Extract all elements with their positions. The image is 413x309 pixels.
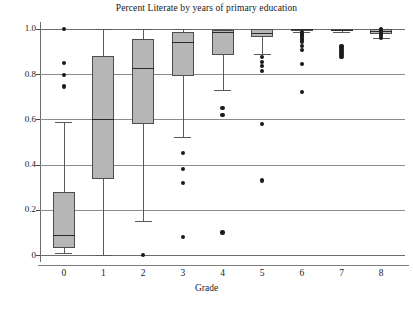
x-axis-tick-label: 1: [91, 268, 115, 278]
y-axis-tick-mark: [36, 74, 40, 75]
y-axis-tick-label: 0.8: [25, 70, 36, 79]
x-axis-tick-label: 4: [211, 268, 235, 278]
y-axis-tick-label: 0.6: [25, 115, 36, 124]
x-axis-tick-label: 3: [171, 268, 195, 278]
x-axis-tick-label: 6: [290, 268, 314, 278]
x-axis-tick-label: 7: [330, 268, 354, 278]
y-axis-tick-mark: [36, 165, 40, 166]
plot-area: [40, 22, 405, 262]
y-axis-tick-label: 0.4: [25, 160, 36, 169]
y-axis-tick-mark: [36, 119, 40, 120]
y-axis-tick-mark: [36, 210, 40, 211]
x-axis-tick-label: 0: [52, 268, 76, 278]
chart-title: Percent Literate by years of primary edu…: [0, 3, 413, 13]
y-axis-tick-labels: 1.00.80.60.40.20: [0, 0, 36, 309]
y-axis-tick-mark: [36, 255, 40, 256]
x-axis-tick-label: 2: [131, 268, 155, 278]
outlier-point[interactable]: [379, 36, 383, 40]
y-axis-tick-label: 0.2: [25, 205, 36, 214]
y-axis-tick-label: 1.0: [25, 24, 36, 33]
boxplot-group[interactable]: [40, 22, 405, 262]
x-axis-line: [38, 265, 409, 266]
boxplot-figure: Percent Literate by years of primary edu…: [0, 0, 413, 309]
x-axis-tick-label: 8: [369, 268, 393, 278]
y-axis-tick-mark: [36, 29, 40, 30]
x-axis-tick-label: 5: [250, 268, 274, 278]
x-axis-title: Grade: [0, 283, 413, 293]
